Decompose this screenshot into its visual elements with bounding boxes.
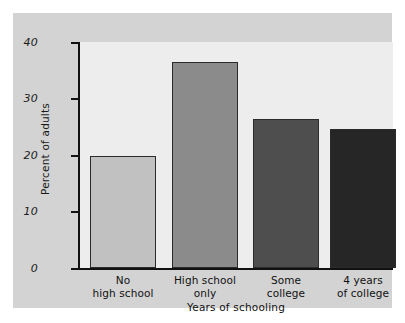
bars-layer [79,42,393,268]
y-tick-mark-0 [71,268,79,270]
x-axis-title: Years of schooling [79,301,393,313]
y-tick-mark-20 [71,155,79,157]
y-tick-label-20: 20 [12,149,38,162]
y-tick-mark-30 [71,98,79,100]
y-tick-label-10: 10 [12,205,38,218]
x-axis-line [78,268,393,270]
chart-panel: 40 30 20 10 0 Percent of adults No high … [13,13,392,308]
y-axis-title: Percent of adults [39,89,51,209]
x-tick-label-line-1: 4 years [303,274,405,287]
y-tick-label-40: 40 [12,36,38,49]
x-tick-label-4-years-of-college: 4 years of college [303,274,405,300]
figure: 40 30 20 10 0 Percent of adults No high … [0,0,405,323]
y-tick-label-30: 30 [12,92,38,105]
bar-no-high-school[interactable] [90,156,156,268]
y-tick-mark-10 [71,211,79,213]
x-tick-label-line-2: of college [303,287,405,300]
y-tick-label-0: 0 [12,262,38,275]
bar-some-college[interactable] [253,119,319,268]
y-tick-mark-40 [71,42,79,44]
bar-4-years-of-college[interactable] [330,129,396,268]
bar-high-school-only[interactable] [172,62,238,268]
